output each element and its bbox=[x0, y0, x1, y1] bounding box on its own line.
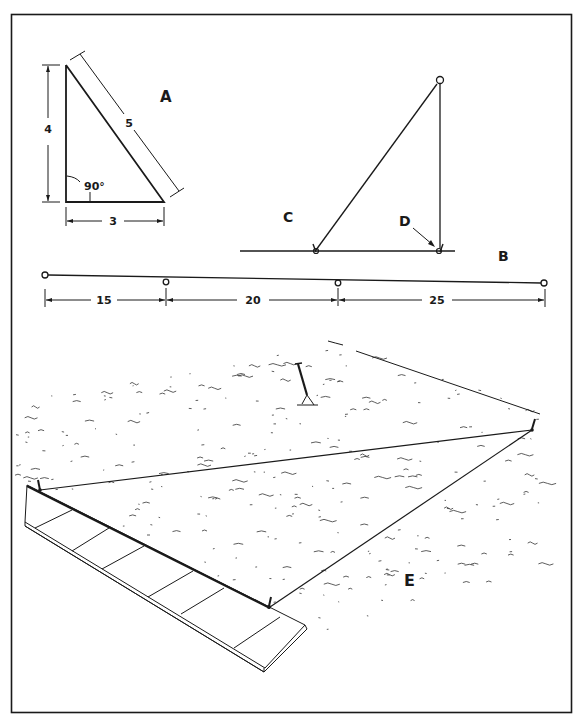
measure-peg-2 bbox=[163, 279, 169, 285]
texture-mark bbox=[477, 445, 485, 446]
texture-mark bbox=[360, 524, 368, 525]
texture-mark bbox=[101, 391, 113, 394]
texture-mark bbox=[74, 443, 79, 444]
arrow bbox=[167, 298, 173, 302]
texture-mark bbox=[204, 460, 213, 461]
texture-mark bbox=[404, 469, 409, 470]
texture-mark bbox=[350, 409, 356, 410]
texture-mark bbox=[425, 537, 430, 538]
texture-mark bbox=[325, 379, 335, 380]
spade-icon bbox=[295, 363, 318, 405]
texture-mark bbox=[405, 486, 422, 489]
dim-5-bottom-tick bbox=[170, 188, 184, 197]
stake-c-label: C bbox=[283, 209, 293, 225]
pavement bbox=[25, 485, 307, 672]
texture-mark bbox=[311, 442, 321, 443]
pavement-joint bbox=[181, 588, 224, 614]
texture-mark bbox=[398, 375, 406, 376]
panel-e-label: E bbox=[404, 571, 415, 590]
string-diagonal bbox=[316, 84, 437, 250]
texture-mark bbox=[508, 554, 514, 555]
texture-mark bbox=[229, 489, 234, 490]
dim-4-arrow-down bbox=[46, 195, 50, 201]
texture-mark bbox=[16, 435, 19, 436]
texture-mark bbox=[421, 551, 431, 552]
texture-mark bbox=[460, 427, 467, 428]
texture-mark bbox=[115, 465, 123, 466]
texture-mark bbox=[463, 582, 470, 583]
texture-mark bbox=[269, 364, 286, 367]
texture-mark bbox=[342, 483, 351, 484]
panel-a-label: A bbox=[160, 88, 172, 106]
diagram-canvas: 4 3 5 90° A C bbox=[0, 0, 581, 722]
stake-right bbox=[530, 419, 535, 432]
texture-mark bbox=[530, 439, 531, 440]
texture-mark bbox=[25, 432, 29, 433]
texture-mark bbox=[283, 567, 292, 568]
texture-mark bbox=[471, 563, 478, 564]
texture-mark bbox=[81, 456, 90, 457]
texture-mark bbox=[500, 502, 514, 505]
stake-d-label: D bbox=[399, 213, 411, 229]
dim-3-label: 3 bbox=[109, 215, 117, 228]
stake-c bbox=[313, 244, 319, 254]
texture-mark bbox=[199, 385, 205, 386]
dim-5-line-lower bbox=[134, 130, 179, 191]
arrow bbox=[339, 298, 345, 302]
dim-4-arrow-up bbox=[46, 66, 50, 72]
texture-mark bbox=[237, 374, 245, 375]
dim-3-arrow-right bbox=[157, 219, 163, 223]
texture-mark bbox=[292, 506, 297, 507]
texture-mark bbox=[135, 509, 140, 510]
texture-mark bbox=[143, 502, 150, 503]
texture-mark bbox=[528, 542, 538, 545]
texture-mark bbox=[395, 476, 405, 477]
texture-mark bbox=[457, 545, 465, 546]
texture-mark bbox=[295, 497, 301, 498]
pavement-joint bbox=[35, 510, 72, 528]
texture-mark bbox=[286, 515, 292, 516]
texture-mark bbox=[379, 561, 382, 562]
texture-mark bbox=[330, 446, 339, 447]
texture-mark bbox=[128, 420, 140, 423]
texture-mark bbox=[31, 468, 40, 469]
angle-90-label: 90° bbox=[84, 180, 105, 193]
measure-seg-2-label: 20 bbox=[245, 294, 261, 307]
texture-mark bbox=[450, 510, 467, 512]
texture-mark bbox=[420, 578, 425, 579]
texture-mark bbox=[276, 408, 285, 409]
texture-mark bbox=[384, 573, 395, 576]
top-peg bbox=[437, 77, 444, 84]
baseline-string bbox=[27, 486, 270, 608]
texture-mark bbox=[354, 459, 360, 460]
dim-3-arrow-left bbox=[67, 219, 73, 223]
panel-e: E bbox=[15, 341, 556, 672]
texture-mark bbox=[71, 461, 73, 462]
texture-mark bbox=[306, 366, 312, 367]
pavement-joint bbox=[102, 546, 144, 569]
pavement-edge-side bbox=[264, 625, 307, 672]
texture-mark bbox=[343, 576, 349, 577]
angle-arrow-vertical bbox=[67, 176, 80, 182]
texture-mark bbox=[320, 519, 337, 522]
texture-mark bbox=[32, 406, 40, 409]
texture-mark bbox=[299, 593, 301, 594]
texture-mark bbox=[149, 482, 151, 483]
texture-mark bbox=[104, 400, 106, 401]
texture-mark bbox=[486, 581, 491, 582]
measure-line: 15 20 25 bbox=[42, 272, 547, 307]
stake-bottom bbox=[267, 597, 271, 609]
texture-mark bbox=[416, 474, 422, 475]
measure-peg-4 bbox=[541, 280, 547, 286]
texture-mark bbox=[360, 497, 368, 498]
texture-mark bbox=[478, 390, 481, 391]
field-edge bbox=[328, 341, 540, 414]
texture-mark bbox=[300, 503, 313, 506]
texture-mark bbox=[254, 455, 257, 456]
pavement-joint bbox=[148, 571, 193, 597]
texture-mark bbox=[233, 424, 241, 425]
panel-b-label: B bbox=[498, 248, 509, 264]
triangle-a bbox=[66, 65, 164, 202]
texture-mark bbox=[408, 476, 417, 477]
arrow bbox=[331, 298, 337, 302]
